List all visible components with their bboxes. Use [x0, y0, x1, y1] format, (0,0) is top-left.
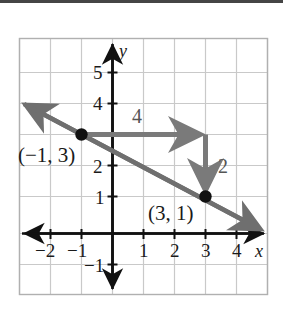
point-label-left: (−1, 3) — [18, 145, 75, 166]
data-point-left — [75, 128, 87, 140]
x-tick-label-neg2: −2 — [35, 241, 55, 260]
figure-canvas: 5 4 2 1 −1 −2 −1 1 2 3 4 x y (−1, 3) (3,… — [0, 0, 283, 331]
y-axis-label: y — [119, 42, 127, 60]
y-tick-label-4: 4 — [93, 94, 103, 113]
y-tick-label-2: 2 — [93, 157, 103, 176]
y-tick-label-1: 1 — [95, 188, 105, 207]
point-label-right: (3, 1) — [148, 203, 194, 224]
x-tick-label-3: 3 — [201, 241, 211, 260]
rise-label: 2 — [218, 156, 228, 176]
x-tick-label-neg1: −1 — [67, 241, 87, 260]
run-label: 4 — [132, 106, 142, 126]
x-tick-label-1: 1 — [139, 241, 149, 260]
x-axis-label: x — [255, 242, 263, 260]
y-tick-label-5: 5 — [93, 63, 103, 82]
data-point-right — [199, 190, 211, 202]
x-tick-label-2: 2 — [170, 241, 180, 260]
x-tick-label-4: 4 — [232, 241, 242, 260]
